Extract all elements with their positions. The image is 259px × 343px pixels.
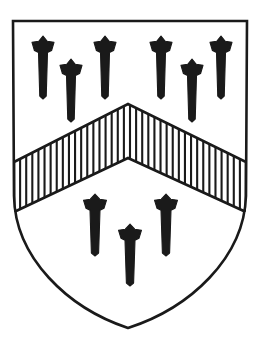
shield-drawing bbox=[0, 0, 259, 343]
heraldic-shield-figure bbox=[0, 0, 259, 343]
